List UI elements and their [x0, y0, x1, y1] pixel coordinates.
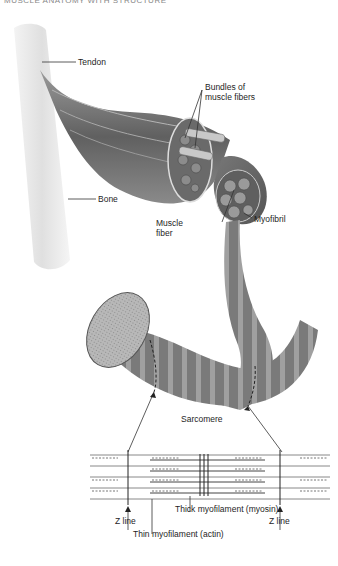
sarcomere-cylinder: [74, 281, 318, 406]
label-z-line-left: Z line: [115, 516, 136, 526]
label-bundles-line2: muscle fibers: [205, 92, 255, 102]
bone-shape: [14, 24, 70, 270]
muscle-belly: [40, 70, 230, 204]
label-z-line-right: Z line: [269, 516, 290, 526]
label-muscle-fiber-line2: fiber: [156, 228, 173, 238]
label-sarcomere: Sarcomere: [181, 414, 223, 424]
muscle-structure-illustration: [0, 0, 338, 566]
label-muscle-fiber-line1: Muscle: [156, 218, 183, 228]
label-tendon: Tendon: [78, 57, 106, 67]
label-thin-myofilament: Thin myofilament (actin): [133, 529, 224, 539]
label-bone: Bone: [98, 194, 118, 204]
label-myofibril: Myofibril: [254, 214, 286, 224]
label-thick-myofilament: Thick myofilament (myosin): [175, 504, 278, 514]
label-bundles-line1: Bundles of: [205, 82, 245, 92]
